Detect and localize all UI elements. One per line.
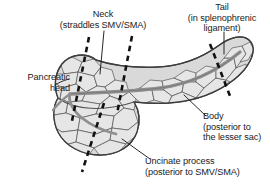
label-tail-line2: (in splenophrenic [176,13,268,24]
label-pancreatic-head: Pancreatic head [2,72,70,93]
label-uncinate-process: Uncinate process (posterior to SMV/SMA) [145,156,270,177]
label-body-line1: Body [203,111,269,122]
label-neck-line1: Neck [47,9,159,20]
label-body: Body (posterior to the lesser sac) [203,111,269,143]
label-body-line2: (posterior to [203,122,269,133]
label-pancreatic-head-line1: Pancreatic [2,72,70,83]
label-uncinate-line1: Uncinate process [145,156,270,167]
label-uncinate-line2: (posterior to SMV/SMA) [145,167,270,178]
label-tail-line1: Tail [176,2,268,13]
label-body-line3: the lesser sac) [203,132,269,143]
label-neck: Neck (straddles SMV/SMA) [47,9,159,30]
label-pancreatic-head-line2: head [2,83,70,94]
label-neck-line2: (straddles SMV/SMA) [47,20,159,31]
label-tail: Tail (in splenophrenic ligament) [176,2,268,34]
pancreas-anatomy-figure: Pancreatic head Neck (straddles SMV/SMA)… [0,0,270,185]
label-tail-line3: ligament) [176,23,268,34]
